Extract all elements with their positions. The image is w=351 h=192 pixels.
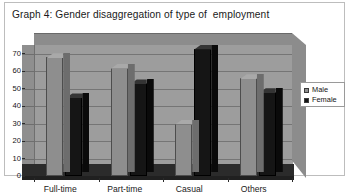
legend-item-female: Female	[304, 95, 344, 105]
bar-face	[175, 124, 192, 176]
bar-side	[82, 93, 89, 172]
chart-plot-area: 010203040506070 Full-timePart-timeCasual…	[8, 33, 341, 173]
legend-label-female: Female	[312, 95, 337, 105]
x-tick-mark-0	[34, 178, 35, 181]
bar-face	[111, 68, 128, 176]
bar-male-full-time	[46, 57, 63, 176]
bar-face	[46, 57, 63, 176]
legend-swatch-male-icon	[304, 88, 309, 93]
bar-side	[128, 64, 135, 172]
bar-male-casual	[175, 124, 192, 176]
x-tick-mark-end	[292, 178, 293, 181]
chart-legend: Male Female	[300, 82, 345, 107]
legend-label-male: Male	[312, 85, 328, 95]
x-tick-mark-1	[99, 178, 100, 181]
bar-male-others	[240, 78, 257, 176]
bar-face	[240, 78, 257, 176]
x-tick-mark-2	[163, 178, 164, 181]
legend-item-male: Male	[304, 85, 344, 95]
figure-container: Graph 4: Gender disaggregation of type o…	[0, 0, 351, 181]
bar-side	[147, 79, 154, 172]
bar-male-part-time	[111, 68, 128, 176]
bar-side	[257, 74, 264, 172]
x-tick-mark-3	[228, 178, 229, 181]
legend-swatch-female-icon	[304, 98, 309, 103]
chart-title: Graph 4: Gender disaggregation of type o…	[12, 9, 332, 21]
bar-side	[192, 120, 199, 172]
bar-side	[211, 45, 218, 173]
bar-side	[276, 88, 283, 172]
bar-side	[63, 53, 70, 172]
